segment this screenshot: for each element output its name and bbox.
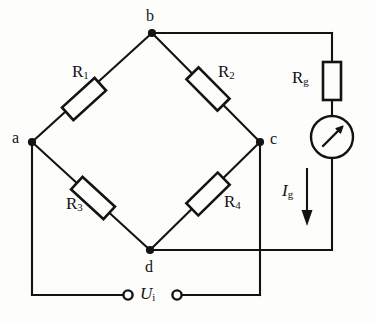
resistor-label-R3: R3 bbox=[66, 195, 83, 213]
node-label-c: c bbox=[270, 131, 277, 147]
resistor-label-R2-letter: R bbox=[218, 62, 229, 81]
resistor-label-R4-letter: R bbox=[224, 192, 235, 211]
resistor-label-Rg: Rg bbox=[292, 69, 309, 87]
node-label-a: a bbox=[12, 130, 19, 146]
resistor-label-R2-sub: 2 bbox=[229, 69, 234, 81]
resistor-label-R1-sub: 1 bbox=[83, 69, 88, 81]
circuit-diagram-figure: b a c d R1 R2 R3 R4 Rg Ig Ui bbox=[0, 0, 376, 324]
galvanometer-symbol bbox=[311, 116, 353, 158]
resistor-R1-body bbox=[62, 78, 106, 120]
resistor-label-Rg-sub: g bbox=[303, 75, 308, 87]
resistor-label-R3-sub: 3 bbox=[77, 201, 82, 213]
node-dot-a bbox=[28, 138, 36, 146]
circuit-schematic-svg bbox=[0, 0, 376, 324]
resistor-label-R4: R4 bbox=[224, 193, 241, 211]
resistor-label-R4-sub: 4 bbox=[235, 199, 240, 211]
resistor-label-R1: R1 bbox=[72, 63, 89, 81]
current-label-Ig-sub: g bbox=[288, 188, 293, 200]
node-dot-b bbox=[148, 29, 156, 37]
resistor-label-R1-letter: R bbox=[72, 62, 83, 81]
node-dot-c bbox=[256, 138, 264, 146]
source-label-Ui-sub: i bbox=[152, 291, 155, 303]
node-dot-d bbox=[146, 246, 154, 254]
node-label-b: b bbox=[146, 8, 154, 24]
resistor-label-R3-letter: R bbox=[66, 194, 77, 213]
node-label-d: d bbox=[145, 259, 153, 275]
current-arrow-Ig bbox=[302, 168, 313, 226]
source-terminal-left[interactable] bbox=[123, 290, 132, 299]
source-label-Ui: Ui bbox=[140, 285, 155, 303]
current-label-Ig: Ig bbox=[282, 182, 293, 200]
resistor-label-R2: R2 bbox=[218, 63, 235, 81]
resistor-label-Rg-letter: R bbox=[292, 68, 303, 87]
resistor-Rg-body bbox=[323, 62, 341, 100]
source-label-Ui-letter: U bbox=[140, 284, 152, 303]
source-terminal-right[interactable] bbox=[172, 290, 181, 299]
